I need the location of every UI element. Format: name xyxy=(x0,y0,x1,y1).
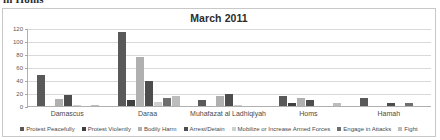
x-axis-category-label: Damascus xyxy=(27,108,107,120)
bar xyxy=(73,105,81,106)
legend-label: Protest Peacefully xyxy=(26,126,74,133)
bar-group xyxy=(189,29,270,106)
chart-legend: Protest PeacefullyProtest ViolentlyBodil… xyxy=(3,122,435,136)
bar xyxy=(91,105,99,106)
y-axis-tick-label: 40 xyxy=(16,78,23,84)
y-axis-tick-label: 120 xyxy=(13,26,23,32)
bar xyxy=(37,75,45,106)
y-axis-tick-label: 100 xyxy=(13,39,23,45)
bar xyxy=(306,100,314,107)
legend-swatch-icon xyxy=(138,127,142,131)
bar xyxy=(127,100,135,106)
chart-title: March 2011 xyxy=(3,12,435,24)
bar xyxy=(118,32,126,106)
chart-container: March 2011 020406080100120 DamascusDaraa… xyxy=(2,8,436,137)
legend-label: Engage in Attacks xyxy=(343,126,391,133)
bar xyxy=(172,96,180,106)
bar xyxy=(360,98,368,106)
x-axis-category-label: Hamah xyxy=(349,108,429,120)
plot-area xyxy=(27,29,431,107)
legend-swatch-icon xyxy=(20,127,24,131)
bar xyxy=(55,99,63,106)
legend-item[interactable]: Protest Violently xyxy=(82,126,131,133)
bar xyxy=(216,96,224,106)
legend-item[interactable]: Protest Peacefully xyxy=(20,126,74,133)
legend-label: Protest Violently xyxy=(88,126,131,133)
y-axis-tick-label: 20 xyxy=(16,91,23,97)
legend-swatch-icon xyxy=(232,127,236,131)
y-axis-tick-label: 80 xyxy=(16,52,23,58)
bar-group xyxy=(270,29,351,106)
bar xyxy=(234,105,242,106)
bar xyxy=(387,103,395,106)
bar xyxy=(64,95,72,106)
bleed-text-above-chart: in Homs xyxy=(3,0,44,3)
y-axis: 020406080100120 xyxy=(3,29,25,107)
bar xyxy=(154,102,162,106)
legend-label: Fight xyxy=(404,126,417,133)
y-axis-tick-label: 0 xyxy=(20,104,23,110)
bar-group xyxy=(28,29,109,106)
bar-group xyxy=(350,29,431,106)
x-axis-category-labels: DamascusDaraaMuhafazat al LadhiqiyahHoms… xyxy=(27,108,429,120)
y-axis-tick-label: 60 xyxy=(16,65,23,71)
bar xyxy=(297,98,305,106)
legend-swatch-icon xyxy=(82,127,86,131)
bar xyxy=(288,103,296,106)
legend-label: Bodily Harm xyxy=(144,126,177,133)
bar xyxy=(163,98,171,106)
legend-label: Arrest/Detain xyxy=(190,126,225,133)
legend-item[interactable]: Engage in Attacks xyxy=(337,126,391,133)
bar xyxy=(333,103,341,106)
legend-item[interactable]: Bodily Harm xyxy=(138,126,177,133)
legend-item[interactable]: Fight xyxy=(398,126,417,133)
legend-swatch-icon xyxy=(184,127,188,131)
bar xyxy=(198,100,206,106)
x-axis-category-label: Daraa xyxy=(107,108,187,120)
legend-swatch-icon xyxy=(337,127,341,131)
legend-label: Mobilize or Increase Armed Forces xyxy=(238,126,331,133)
x-axis-category-label: Homs xyxy=(268,108,348,120)
bar xyxy=(145,81,153,106)
bar xyxy=(279,96,287,106)
bar xyxy=(225,94,233,106)
x-axis-category-label: Muhafazat al Ladhiqiyah xyxy=(188,108,268,120)
legend-swatch-icon xyxy=(398,127,402,131)
bar-group xyxy=(109,29,190,106)
legend-item[interactable]: Arrest/Detain xyxy=(184,126,225,133)
bar xyxy=(136,57,144,106)
legend-item[interactable]: Mobilize or Increase Armed Forces xyxy=(232,126,331,133)
bar-groups xyxy=(28,29,431,106)
bar xyxy=(405,103,413,106)
plot-wrapper: 020406080100120 xyxy=(3,29,437,107)
